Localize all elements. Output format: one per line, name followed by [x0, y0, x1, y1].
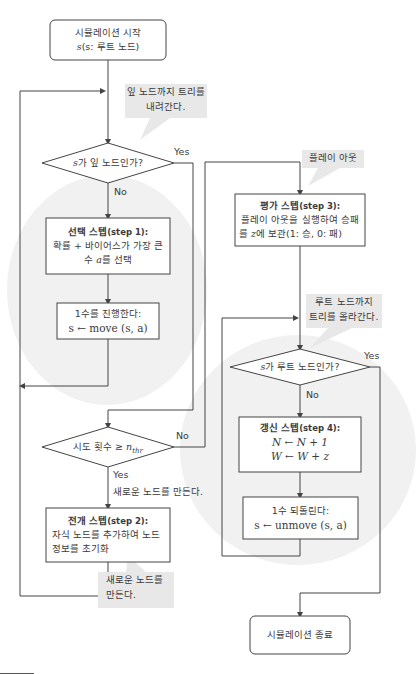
trials-yes-label: Yes [113, 469, 128, 480]
trials-check-label: 시도 횟수 ≥ nthr [42, 440, 174, 458]
trials-yes-note: 새로운 노드를 만든다. [113, 484, 203, 498]
callout-descend: 잎 노드까지 트리를 내려간다. [125, 84, 207, 118]
unmove-label: 1수 되돌린다: s ← unmove (s, a) [243, 504, 358, 532]
leaf-check-label: s가 잎 노드인가? [42, 156, 174, 170]
leaf-no-label: No [114, 186, 127, 197]
callout-new-node: 새로운 노드를 만든다. [98, 572, 174, 608]
callout-ascend: 루트 노드까지 트리를 올라간다. [306, 294, 382, 328]
evaluate-label: 평가 스텝(step 3): 플레이 아웃을 실행하여 승패 를 z에 보관(1… [235, 199, 365, 241]
root-check-label: s가 루트 노드인가? [230, 360, 370, 374]
start-label: 시뮬레이션 시작 s(s: 루트 노드) [50, 26, 166, 54]
descend-ellipse [7, 175, 207, 405]
leaf-yes-label: Yes [174, 146, 189, 157]
update-label: 갱신 스텝(step 4): N ← N + 1 W ← W + z [239, 421, 361, 463]
trials-no-label: No [176, 430, 189, 441]
flowchart-canvas [0, 0, 416, 674]
root-no-label: No [306, 389, 319, 400]
callout-playout: 플레이 아웃 [302, 150, 364, 168]
end-label: 시뮬레이션 종료 [250, 628, 350, 642]
root-yes-label: Yes [364, 350, 379, 361]
descend-callout-pointer [140, 118, 170, 140]
select-label: 선택 스텝(step 1): 확률 + 바이어스가 가장 큰 수 a를 선택 [46, 225, 170, 267]
move-label: 1수를 진행한다: s ← move (s, a) [57, 307, 159, 335]
playout-callout-pointer [308, 168, 340, 186]
expand-label: 전개 스텝(step 2): 자식 노드를 추가하여 노드 정보를 초기화 [46, 514, 170, 556]
